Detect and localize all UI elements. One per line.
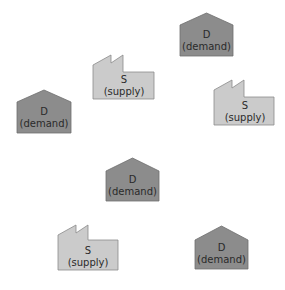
- node-label: (supply): [68, 257, 109, 268]
- node-symbol: D: [218, 242, 226, 253]
- demand-node: D (demand): [106, 158, 159, 201]
- node-symbol: D: [40, 106, 48, 117]
- node-label: (supply): [225, 112, 266, 123]
- supply-demand-diagram: D (demand) S (supply) D (demand) S (supp…: [0, 0, 285, 290]
- node-symbol: S: [85, 245, 91, 256]
- node-label: (demand): [197, 254, 246, 265]
- node-label: (demand): [20, 118, 69, 129]
- supply-node: S (supply): [58, 225, 118, 270]
- node-symbol: S: [242, 100, 248, 111]
- node-label: (demand): [108, 186, 157, 197]
- node-label: (supply): [104, 86, 145, 97]
- node-symbol: D: [203, 29, 211, 40]
- node-symbol: D: [129, 174, 137, 185]
- supply-node: S (supply): [93, 55, 154, 99]
- supply-node: S (supply): [214, 80, 274, 125]
- demand-node: D (demand): [17, 90, 71, 133]
- node-label: (demand): [182, 41, 231, 52]
- demand-node: D (demand): [195, 226, 248, 269]
- demand-node: D (demand): [180, 13, 233, 56]
- node-symbol: S: [121, 74, 127, 85]
